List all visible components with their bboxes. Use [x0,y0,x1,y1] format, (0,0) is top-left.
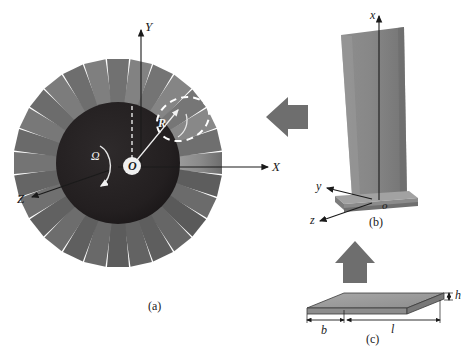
dimension-label-b: b [321,324,327,336]
panel-c-caption: (c) [366,333,379,345]
figure-canvas [0,0,467,349]
axis-label-Z: Z [17,192,24,205]
dimension-label-l: l [391,323,394,335]
axis-label-X: X [272,160,280,173]
axis-label-y-local: y [316,180,321,192]
panel-c-plate-model [307,293,453,323]
arrow-disk-to-blade [266,97,308,137]
panel-b-single-blade [320,16,418,221]
panel-b-caption: (b) [369,216,383,228]
origin-label-o-local: o [382,200,388,211]
plate-front-face [307,308,407,314]
axis-label-z-local: z [310,214,315,226]
panel-a-bladed-disk [14,30,268,267]
arrow-plate-to-blade [335,241,375,283]
panel-a-caption: (a) [148,300,161,312]
dimension-h [444,293,453,300]
axis-label-x-local: x [370,9,375,21]
origin-label-O: O [128,160,137,172]
axis-label-Y: Y [145,20,152,33]
dimension-label-h: h [455,289,461,301]
radius-label-R: R [158,117,166,129]
rotation-label-omega: Ω [91,150,100,162]
